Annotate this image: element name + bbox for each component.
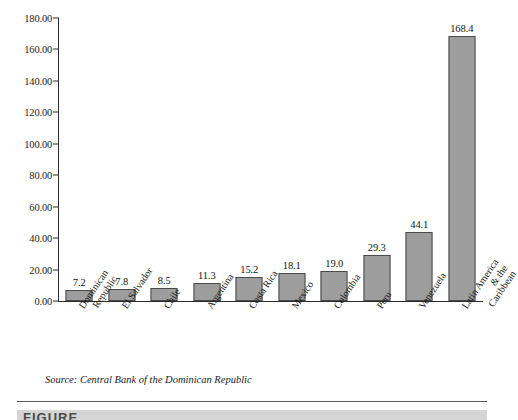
bar-slot: 44.1 — [398, 18, 441, 301]
bar-slot: 15.2 — [228, 18, 271, 301]
bar-slot: 18.1 — [271, 18, 314, 301]
bar-value-label: 168.4 — [450, 23, 473, 34]
bar-value-label: 44.1 — [410, 219, 428, 230]
y-axis-tick-label: 140.00 — [0, 75, 58, 86]
bar-slot: 8.5 — [143, 18, 186, 301]
bar-series: 7.27.88.511.315.218.119.029.344.1168.4 — [58, 18, 483, 301]
x-axis-category-labels: DominicanRepublicEl SalvadorChileArgenti… — [58, 303, 483, 383]
category-label-slot: Peru — [356, 303, 399, 383]
category-label-slot: Mexico — [271, 303, 314, 383]
figure-number-label: FIGURE — [23, 410, 78, 420]
y-axis-tick-label: 40.00 — [0, 233, 58, 244]
bar[interactable] — [448, 36, 475, 301]
bar-slot: 7.8 — [101, 18, 144, 301]
y-axis-tick-label: 180.00 — [0, 13, 58, 24]
category-label-slot: El Salvador — [101, 303, 144, 383]
category-label-slot: Colombia — [313, 303, 356, 383]
y-axis-tick-label: 120.00 — [0, 107, 58, 118]
y-axis-tick-label: 100.00 — [0, 138, 58, 149]
bar-value-label: 15.2 — [240, 264, 258, 275]
footer-divider — [17, 401, 487, 402]
bar-slot: 168.4 — [441, 18, 484, 301]
y-axis-tick-label: 160.00 — [0, 44, 58, 55]
bar-value-label: 8.5 — [158, 275, 171, 286]
y-axis-tick-label: 0.00 — [0, 296, 58, 307]
y-axis-tick-label: 80.00 — [0, 170, 58, 181]
source-caption: Source: Central Bank of the Dominican Re… — [45, 374, 252, 385]
bar-value-label: 29.3 — [368, 242, 386, 253]
bar-value-label: 7.2 — [73, 277, 86, 288]
bar-slot: 7.2 — [58, 18, 101, 301]
bar-value-label: 11.3 — [198, 270, 216, 281]
category-label-slot: DominicanRepublic — [58, 303, 101, 383]
figure-number-band: FIGURE — [17, 410, 487, 420]
category-label-slot: Latin America& theCaribbean — [441, 303, 484, 383]
bar-slot: 19.0 — [313, 18, 356, 301]
category-label-slot: Chile — [143, 303, 186, 383]
category-label-slot: Venezuela — [398, 303, 441, 383]
y-axis-tick-label: 60.00 — [0, 201, 58, 212]
bar-value-label: 19.0 — [325, 258, 343, 269]
y-axis-tick-label: 20.00 — [0, 264, 58, 275]
bar-value-label: 18.1 — [283, 260, 301, 271]
category-label-slot: Costa Rica — [228, 303, 271, 383]
bar-slot: 29.3 — [356, 18, 399, 301]
category-label-slot: Argentina — [186, 303, 229, 383]
bar-slot: 11.3 — [186, 18, 229, 301]
